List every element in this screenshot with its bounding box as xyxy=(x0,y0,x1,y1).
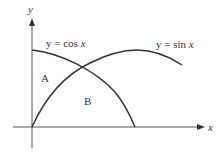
y-axis-label: y xyxy=(27,3,33,15)
x-axis-label: x xyxy=(207,121,213,133)
sin-curve xyxy=(32,50,182,127)
region-a-label: A xyxy=(41,72,49,84)
sin-curve-label: y = sin x xyxy=(156,38,194,50)
y-axis-arrow-icon xyxy=(29,18,35,26)
region-b-label: B xyxy=(84,95,91,107)
cos-curve xyxy=(32,50,135,127)
cos-curve-label: y = cos x xyxy=(46,37,86,49)
x-axis-arrow-icon xyxy=(197,124,205,130)
graph-canvas: y x y = cos x y = sin x A B xyxy=(0,0,219,152)
